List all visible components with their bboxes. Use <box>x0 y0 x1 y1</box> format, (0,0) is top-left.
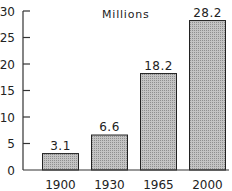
x-category-label: 1930 <box>94 178 125 191</box>
y-tick-label: 15 <box>0 84 15 98</box>
bar-1900 <box>43 154 79 170</box>
bar-value-label: 3.1 <box>50 139 71 153</box>
x-category-label: 1965 <box>143 178 174 191</box>
y-tick-label: 0 <box>7 164 15 178</box>
y-axis: 051015202530 <box>0 5 30 178</box>
bar-value-label: 28.2 <box>193 6 222 20</box>
x-axis: 1900193019652000 <box>23 170 229 191</box>
chart-title: Millions <box>102 8 150 21</box>
bars: 3.16.618.228.2 <box>43 6 226 170</box>
bar-1965 <box>141 74 177 170</box>
x-category-label: 1900 <box>45 178 76 191</box>
bar-2000 <box>190 21 226 170</box>
bar-chart: 051015202530 3.16.618.228.2 190019301965… <box>0 0 232 191</box>
y-tick-label: 10 <box>0 111 15 125</box>
y-tick-label: 25 <box>0 31 15 45</box>
bar-value-label: 18.2 <box>144 59 173 73</box>
y-tick-label: 20 <box>0 58 15 72</box>
bar-value-label: 6.6 <box>99 120 120 134</box>
y-tick-label: 5 <box>7 137 15 151</box>
y-tick-label: 30 <box>0 5 15 19</box>
x-category-label: 2000 <box>192 178 223 191</box>
bar-1930 <box>92 135 128 170</box>
